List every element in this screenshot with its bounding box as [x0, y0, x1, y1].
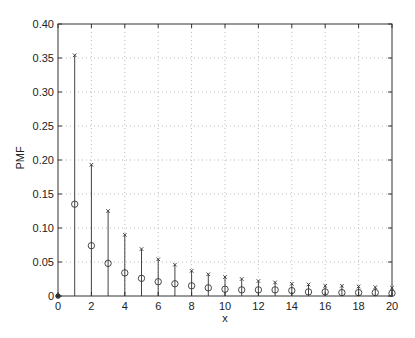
y-tick-label: 0: [48, 290, 54, 302]
stem-lines: [75, 55, 392, 296]
pmf-stem-chart: 02468101214161820 00.050.100.150.200.250…: [0, 0, 415, 338]
y-tick-label: 0.25: [33, 120, 54, 132]
y-tick-label: 0.15: [33, 188, 54, 200]
y-tick-label: 0.30: [33, 86, 54, 98]
x-tick-label: 6: [155, 300, 161, 312]
y-tick-label: 0.05: [33, 256, 54, 268]
x-tick-label: 14: [286, 300, 298, 312]
y-axis-label: PMF: [14, 146, 26, 170]
y-tick-label: 0.10: [33, 222, 54, 234]
x-tick-label: 4: [122, 300, 128, 312]
x-tick-labels: 02468101214161820: [55, 300, 398, 312]
x-tick-label: 12: [252, 300, 264, 312]
y-tick-label: 0.20: [33, 154, 54, 166]
x-tick-label: 10: [219, 300, 231, 312]
x-tick-label: 16: [319, 300, 331, 312]
y-tick-label: 0.35: [33, 52, 54, 64]
x-tick-label: 18: [352, 300, 364, 312]
x-tick-label: 2: [88, 300, 94, 312]
x-tick-label: 20: [386, 300, 398, 312]
y-tick-labels: 00.050.100.150.200.250.300.350.40: [33, 18, 54, 302]
x-axis-label: x: [222, 312, 228, 324]
x-tick-label: 8: [189, 300, 195, 312]
y-tick-label: 0.40: [33, 18, 54, 30]
x-tick-label: 0: [55, 300, 61, 312]
